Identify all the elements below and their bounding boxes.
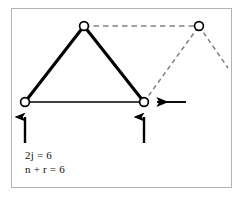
equation-line-2: n + r = 6 — [25, 162, 65, 176]
equation-line-1: 2j = 6 — [25, 148, 65, 162]
left-support-node — [21, 98, 30, 107]
nodes-group — [21, 22, 204, 107]
dashed-rise — [144, 26, 199, 102]
middle-support-node — [140, 98, 149, 107]
solid-members-group — [25, 26, 144, 102]
arrows-group — [25, 102, 186, 143]
apex-node — [80, 22, 89, 31]
member-right-fall — [84, 26, 144, 102]
figure-root: 2j = 6 n + r = 6 — [0, 0, 244, 198]
right-apex-node — [195, 22, 204, 31]
member-left-rise — [25, 26, 84, 102]
dashed-members-group — [84, 26, 228, 102]
dashed-tail — [199, 26, 228, 68]
equation-annotations: 2j = 6 n + r = 6 — [25, 148, 65, 176]
